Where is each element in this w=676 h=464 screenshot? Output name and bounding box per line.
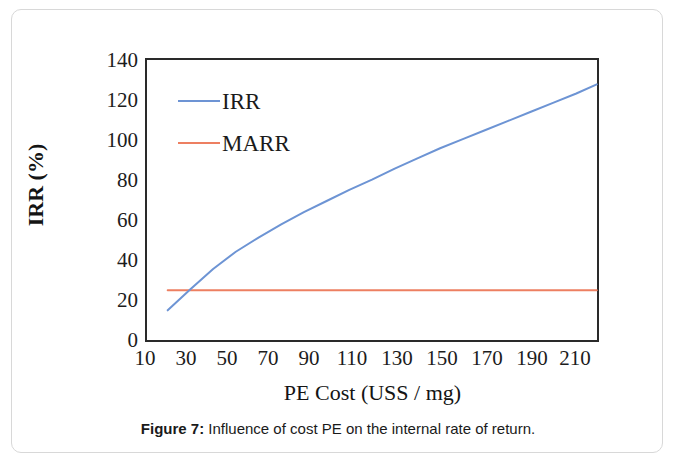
x-tick-label: 150 — [426, 348, 458, 369]
legend-item-irr: IRR — [178, 86, 348, 116]
x-tick-label: 50 — [217, 348, 238, 369]
chart-figure: IRR (%) 0 20 40 60 80 100 120 140 IRR MA… — [0, 0, 676, 464]
y-axis-tick-labels: 0 20 40 60 80 100 120 140 — [80, 0, 138, 464]
x-tick-label: 210 — [559, 348, 591, 369]
x-tick-label: 130 — [381, 348, 413, 369]
x-tick-label: 190 — [516, 348, 548, 369]
y-axis-title: IRR (%) — [23, 105, 49, 265]
y-tick-label: 20 — [80, 290, 138, 311]
x-axis-tick-labels: 10 30 50 70 90 110 130 150 170 190 210 — [145, 348, 600, 374]
legend-label-irr: IRR — [222, 90, 260, 113]
legend-swatch-marr — [178, 142, 220, 144]
legend-swatch-irr — [178, 100, 220, 102]
y-tick-label: 0 — [80, 330, 138, 351]
x-tick-label: 170 — [471, 348, 503, 369]
x-axis-title: PE Cost (USS / mg) — [145, 380, 600, 406]
y-tick-label: 100 — [80, 130, 138, 151]
figure-caption: Figure 7: Influence of cost PE on the in… — [20, 420, 656, 437]
y-tick-label: 60 — [80, 210, 138, 231]
x-tick-label: 110 — [337, 348, 368, 369]
x-tick-label: 10 — [135, 348, 156, 369]
x-tick-label: 90 — [299, 348, 320, 369]
figure-caption-text: Influence of cost PE on the internal rat… — [204, 420, 535, 437]
y-tick-label: 80 — [80, 170, 138, 191]
figure-caption-label: Figure 7: — [141, 420, 204, 437]
legend-item-marr: MARR — [178, 128, 348, 158]
y-tick-label: 140 — [80, 50, 138, 71]
chart-legend: IRR MARR — [178, 86, 348, 170]
x-tick-label: 30 — [176, 348, 197, 369]
y-tick-label: 40 — [80, 250, 138, 271]
legend-label-marr: MARR — [222, 132, 290, 155]
y-tick-label: 120 — [80, 90, 138, 111]
x-tick-label: 70 — [258, 348, 279, 369]
